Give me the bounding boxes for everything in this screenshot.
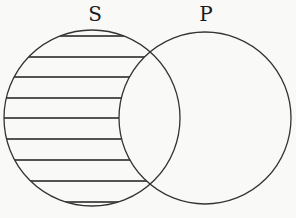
label-s: S — [88, 2, 102, 26]
shaded-region-s-not-p — [0, 36, 296, 202]
label-p: P — [199, 2, 212, 26]
venn-svg: S P — [0, 0, 296, 218]
venn-diagram: S P — [0, 0, 296, 218]
